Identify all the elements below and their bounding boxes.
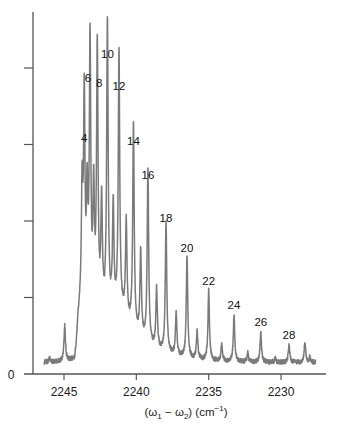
peak-label: 6 — [85, 72, 91, 84]
peak-label: 4 — [81, 132, 88, 144]
peak-label: 28 — [283, 329, 296, 341]
x-tick-label: 2235 — [195, 385, 222, 399]
peak-label: 16 — [142, 169, 155, 181]
peak-label: 26 — [254, 316, 267, 328]
y-axis — [24, 12, 33, 374]
peak-label: 24 — [228, 299, 241, 311]
y-zero-label: 0 — [8, 368, 15, 382]
peak-label: 8 — [96, 77, 102, 89]
spectrum-trace — [44, 17, 316, 364]
peak-label: 18 — [160, 212, 173, 224]
x-tick-label: 2230 — [268, 385, 295, 399]
peak-label: 12 — [113, 80, 126, 92]
x-tick-label: 2240 — [123, 385, 150, 399]
x-tick-label: 2245 — [51, 385, 78, 399]
x-axis: 2245224022352230 — [24, 374, 326, 399]
peak-label: 20 — [181, 242, 194, 254]
spectrum-chart: 2245224022352230 46810121416182022242628… — [0, 0, 341, 431]
peak-label: 10 — [101, 48, 114, 60]
peak-label: 14 — [127, 135, 140, 147]
peak-label: 22 — [202, 275, 215, 287]
x-axis-label: (ω1 − ω2) (cm−1) — [145, 404, 228, 421]
